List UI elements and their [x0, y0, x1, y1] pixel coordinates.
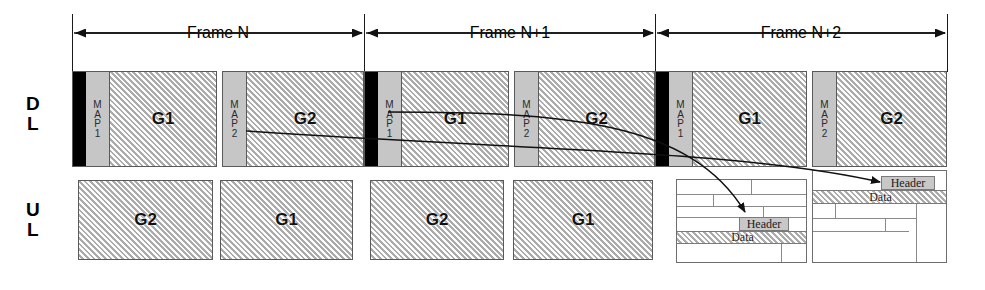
- dl-block[interactable]: M A P 1 G1: [364, 71, 509, 167]
- data-label: Data: [869, 190, 892, 205]
- dl-block[interactable]: M A P 2 G2: [812, 71, 947, 167]
- header-cell: Header: [881, 176, 935, 190]
- group-label: G1: [152, 109, 175, 129]
- map-cell: M A P 2: [515, 72, 539, 166]
- row-label-ul: U L: [20, 200, 46, 240]
- data-band: Data: [677, 231, 807, 244]
- frame-tick-3: [947, 14, 948, 72]
- detail-hline: [677, 194, 807, 195]
- ul-block[interactable]: G2: [370, 180, 504, 260]
- map-cell: M A P 1: [378, 72, 402, 166]
- map-label-line: 2: [820, 129, 828, 139]
- group-region: G1: [110, 72, 216, 166]
- detail-vline: [781, 242, 782, 263]
- header-label: Header: [891, 176, 926, 191]
- diagram-canvas: Frame N Frame N+1 Frame N+2 D L U L M A …: [0, 0, 985, 290]
- map-label-line: 2: [522, 129, 530, 139]
- header-cell: Header: [739, 217, 789, 231]
- group-region: G2: [539, 72, 654, 166]
- row-label-ul-line-1: L: [20, 220, 46, 240]
- dl-block[interactable]: M A P 2 G2: [514, 71, 655, 167]
- group-label: G1: [738, 109, 761, 129]
- map-cell: M A P 1: [669, 72, 693, 166]
- preamble-bar: [365, 72, 378, 166]
- group-label: G2: [880, 109, 903, 129]
- group-label: G2: [426, 210, 449, 230]
- map-label-line: 1: [676, 129, 684, 139]
- group-region: G1: [693, 72, 806, 166]
- map-label: M A P 1: [93, 100, 101, 138]
- detail-vline: [713, 194, 714, 206]
- dl-block[interactable]: M A P 1 G1: [655, 71, 807, 167]
- dl-block[interactable]: M A P 1 G1: [72, 71, 217, 167]
- map-label-line: 1: [385, 129, 393, 139]
- map-label: M A P 1: [676, 100, 684, 138]
- group-label: G2: [585, 109, 608, 129]
- detail-hline: [677, 206, 807, 207]
- preamble-bar: [656, 72, 669, 166]
- frame-tick-0: [72, 14, 73, 72]
- detail-hline: [813, 231, 909, 232]
- ul-block[interactable]: G2: [78, 180, 213, 260]
- data-label: Data: [731, 230, 754, 245]
- frame-label-1: Frame N+1: [467, 24, 553, 42]
- detail-vline: [916, 204, 917, 263]
- group-region: G2: [837, 72, 946, 166]
- burst-detail-box-right[interactable]: Header Data: [812, 170, 947, 263]
- detail-vline: [835, 204, 836, 218]
- group-label: G1: [444, 109, 467, 129]
- frame-tick-1: [364, 14, 365, 72]
- detail-vline: [885, 218, 886, 231]
- row-label-dl-line-1: L: [20, 114, 46, 134]
- group-label: G2: [294, 109, 317, 129]
- map-label: M A P 2: [820, 100, 828, 138]
- frame-label-2: Frame N+2: [758, 24, 844, 42]
- ul-block[interactable]: G1: [513, 180, 653, 260]
- group-region: G2: [247, 72, 363, 166]
- map-label: M A P 1: [385, 100, 393, 138]
- map-label: M A P 2: [230, 100, 238, 138]
- row-label-ul-line-0: U: [20, 200, 46, 220]
- ul-block[interactable]: G1: [220, 180, 353, 260]
- map-cell: M A P 2: [223, 72, 247, 166]
- data-band: Data: [813, 190, 947, 204]
- map-label-line: 1: [93, 129, 101, 139]
- group-region: G1: [402, 72, 508, 166]
- preamble-bar: [73, 72, 86, 166]
- map-label-line: 2: [230, 129, 238, 139]
- detail-vline: [751, 180, 752, 194]
- frame-label-0: Frame N: [184, 24, 252, 42]
- dl-block[interactable]: M A P 2 G2: [222, 71, 364, 167]
- burst-detail-box-left[interactable]: Header Data: [676, 179, 807, 263]
- detail-vline: [763, 206, 764, 217]
- row-label-dl: D L: [20, 94, 46, 134]
- group-label: G2: [134, 210, 157, 230]
- detail-hline: [813, 218, 916, 219]
- row-label-dl-line-0: D: [20, 94, 46, 114]
- frame-tick-2: [655, 14, 656, 72]
- map-cell: M A P 1: [86, 72, 110, 166]
- map-label: M A P 2: [522, 100, 530, 138]
- map-cell: M A P 2: [813, 72, 837, 166]
- group-label: G1: [572, 210, 595, 230]
- group-label: G1: [275, 210, 298, 230]
